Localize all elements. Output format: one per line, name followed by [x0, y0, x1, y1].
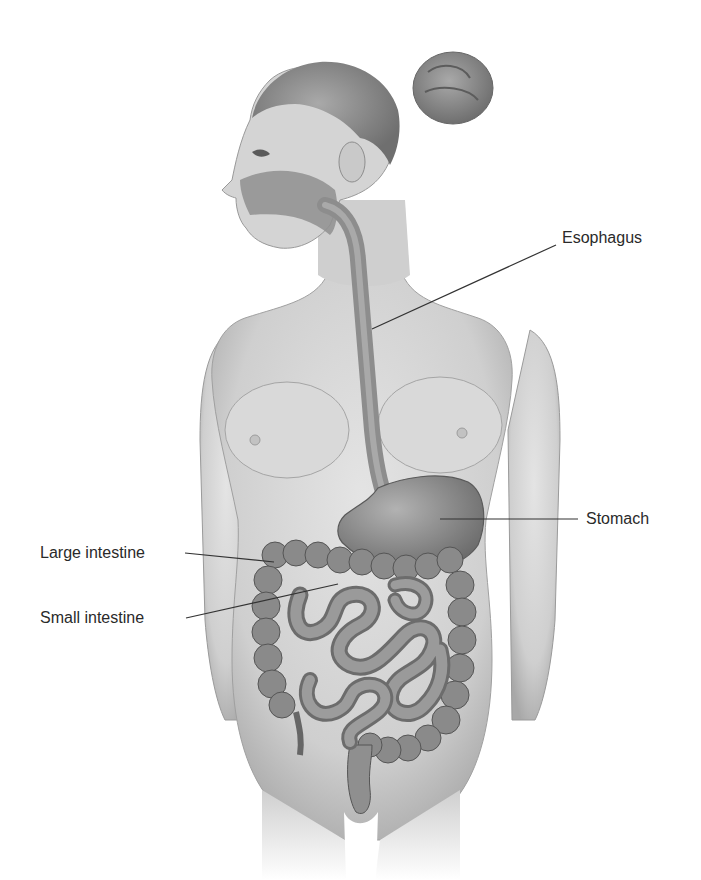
- label-stomach: Stomach: [586, 511, 649, 527]
- label-esophagus: Esophagus: [562, 230, 642, 246]
- digestive-system-illustration: [0, 0, 701, 880]
- label-large-intestine: Large intestine: [40, 545, 145, 561]
- label-small-intestine: Small intestine: [40, 610, 144, 626]
